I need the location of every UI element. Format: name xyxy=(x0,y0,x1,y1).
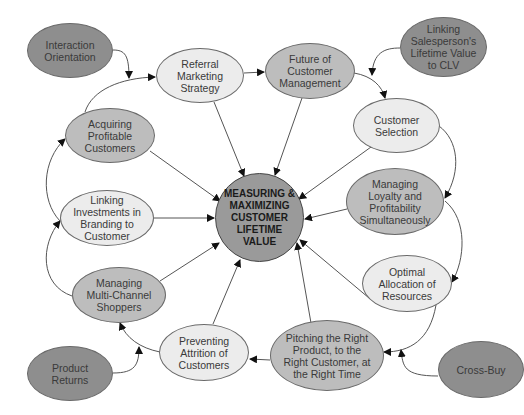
arrow-pitching-to-attrition xyxy=(250,359,270,360)
node-preventing-attrition: Preventing Attrition of Customers xyxy=(159,324,249,381)
node-label: Acquiring Profitable Customers xyxy=(85,118,136,154)
arrow-future-to-selection xyxy=(354,73,385,98)
node-linking-investments: Linking Investments in Branding to Custo… xyxy=(60,190,154,246)
node-label: Customer Selection xyxy=(374,114,420,138)
node-label: Future of Customer Management xyxy=(279,53,340,89)
node-label: Optimal Allocation of Resources xyxy=(378,266,435,302)
node-label: Cross-Buy xyxy=(456,364,505,376)
node-label: Managing Loyalty and Profitability Simul… xyxy=(359,178,430,226)
node-label: Pitching the Right Product, to the Right… xyxy=(284,332,371,380)
node-label: Product Returns xyxy=(52,362,89,386)
arrow-salesperson-to-future-selection xyxy=(372,48,400,75)
node-label: Preventing Attrition of Customers xyxy=(179,335,230,371)
node-center-clv: MEASURING & MAXIMIZING CUSTOMER LIFETIME… xyxy=(215,173,304,262)
arrow-multichannel-to-center xyxy=(160,243,219,281)
node-cross-buy: Cross-Buy xyxy=(438,341,524,398)
node-pitching-right-product: Pitching the Right Product, to the Right… xyxy=(270,320,384,391)
arrow-loyalty-to-center xyxy=(305,209,347,219)
arrow-acquiring-to-center xyxy=(150,151,220,201)
node-label: Managing Multi-Channel Shoppers xyxy=(87,277,152,313)
center-label: MEASURING & MAXIMIZING CUSTOMER LIFETIME… xyxy=(224,188,295,248)
node-label: Interaction Orientation xyxy=(44,39,95,63)
arrow-pitching-to-center xyxy=(297,243,311,323)
arrow-interaction-to-referral xyxy=(113,50,129,78)
arrow-returns-to-attrition xyxy=(113,347,139,373)
node-optimal-allocation: Optimal Allocation of Resources xyxy=(362,255,452,312)
arrow-crossbuy-to-pitching xyxy=(401,350,438,376)
arrow-loyalty-to-optimal xyxy=(445,201,462,282)
node-managing-loyalty: Managing Loyalty and Profitability Simul… xyxy=(346,168,444,235)
node-label: Referral Marketing Strategy xyxy=(177,58,223,94)
node-future-customer-management: Future of Customer Management xyxy=(265,43,355,99)
arrow-future-to-center xyxy=(275,98,302,175)
arrow-acquiring-to-referral xyxy=(85,77,155,112)
node-acquiring-profitable: Acquiring Profitable Customers xyxy=(65,108,155,163)
node-label: Linking Investments in Branding to Custo… xyxy=(73,194,141,242)
node-product-returns: Product Returns xyxy=(27,346,113,401)
node-linking-salesperson: Linking Salesperson's Lifetime Value to … xyxy=(400,17,487,77)
arrow-attrition-to-center xyxy=(213,260,240,324)
arrow-referral-to-center xyxy=(214,102,244,176)
node-interaction-orientation: Interaction Orientation xyxy=(27,23,113,78)
node-managing-multichannel: Managing Multi-Channel Shoppers xyxy=(72,267,166,323)
node-label: Linking Salesperson's Lifetime Value to … xyxy=(411,23,477,71)
node-referral-marketing: Referral Marketing Strategy xyxy=(156,48,244,103)
arrow-optimal-to-center xyxy=(300,240,369,298)
arrow-attrition-to-multichannel xyxy=(120,323,160,352)
node-customer-selection: Customer Selection xyxy=(353,98,440,153)
arrow-referral-to-future xyxy=(244,72,264,73)
arrow-selection-to-loyalty xyxy=(439,126,456,198)
arrow-optimal-to-pitching xyxy=(384,305,436,352)
